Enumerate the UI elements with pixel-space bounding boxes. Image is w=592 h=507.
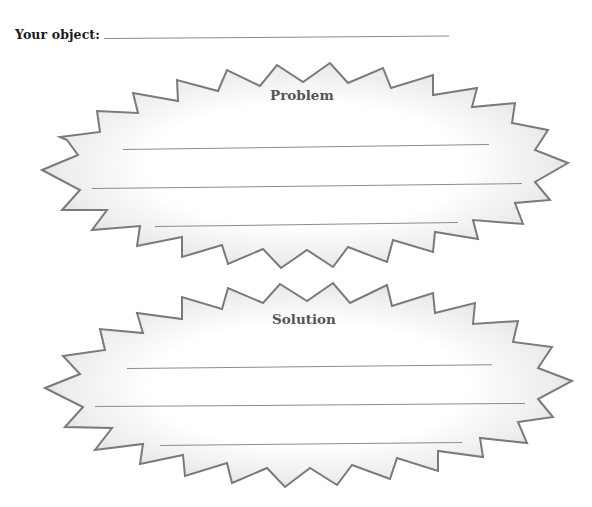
starburst-graphics: [0, 0, 592, 507]
problem-title: Problem: [270, 87, 334, 103]
solution-title: Solution: [272, 311, 336, 327]
